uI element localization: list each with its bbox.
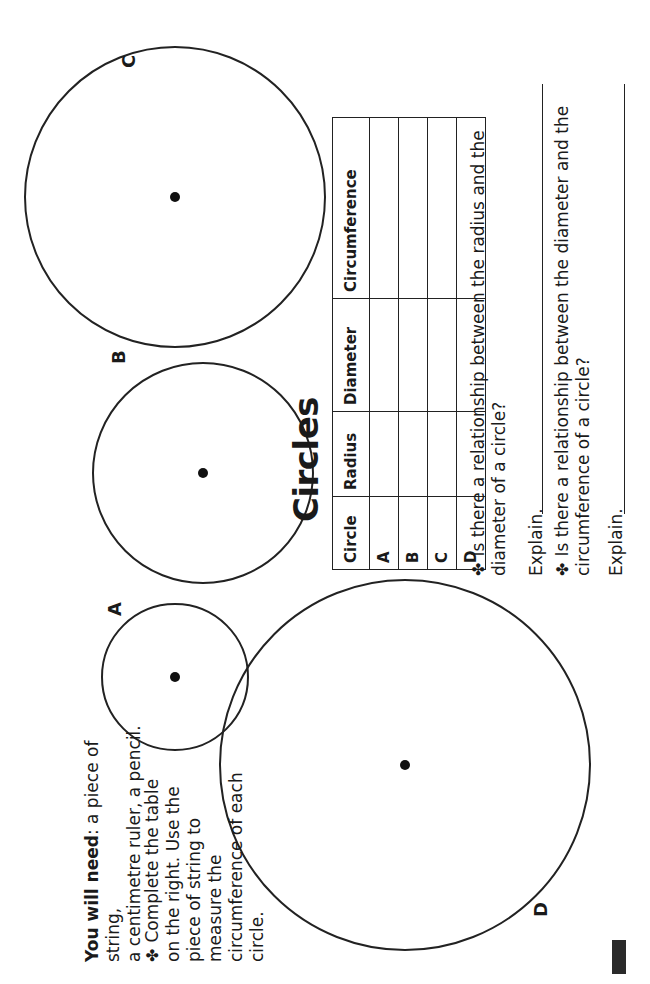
explain-label-1: Explain.	[526, 508, 547, 576]
center-dot-icon	[198, 468, 208, 478]
instruction-text: ✤Complete the table on the right. Use th…	[142, 722, 268, 962]
instruction-line: circumference of each circle.	[226, 722, 268, 962]
bullet-icon: ✤	[553, 563, 572, 576]
question-text: diameter of a circle?	[489, 76, 510, 576]
header-circle: Circle	[333, 497, 370, 570]
diameter-cell[interactable]	[370, 299, 399, 412]
question-2: ✤Is there a relationship between the dia…	[552, 56, 594, 576]
table-row: C	[428, 118, 457, 570]
circle-label-c: C	[118, 55, 139, 68]
circle-label-b: B	[108, 350, 129, 364]
question-1: ✤Is there a relationship between the rad…	[468, 76, 510, 576]
header-radius: Radius	[333, 412, 370, 497]
table-row: B	[399, 118, 428, 570]
center-dot-icon	[170, 672, 180, 682]
radius-cell[interactable]	[399, 412, 428, 497]
question-text: Is there a relationship between the radi…	[468, 130, 488, 556]
question-text: circumference of a circle?	[573, 56, 594, 576]
circle-label-a: A	[104, 602, 125, 616]
diameter-cell[interactable]	[428, 299, 457, 412]
header-circumference: Circumference	[333, 118, 370, 299]
publisher-logo-icon	[612, 940, 626, 974]
bullet-icon: ✤	[469, 563, 488, 576]
radius-cell[interactable]	[370, 412, 399, 497]
radius-cell[interactable]	[428, 412, 457, 497]
bullet-icon: ✤	[143, 949, 162, 962]
header-diameter: Diameter	[333, 299, 370, 412]
instruction-line: on the right. Use the	[163, 722, 184, 962]
materials-label: You will need	[82, 835, 102, 962]
circumference-cell[interactable]	[399, 118, 428, 299]
circle-d	[220, 580, 590, 950]
answer-line-1[interactable]	[542, 84, 543, 514]
worksheet-page: A B C D Circles You will need: a piece o…	[0, 0, 650, 984]
instruction-line: measure the	[205, 722, 226, 962]
circle-label-d: D	[530, 902, 551, 917]
diameter-cell[interactable]	[399, 299, 428, 412]
circle-c	[25, 47, 325, 347]
center-dot-icon	[170, 192, 180, 202]
explain-label-2: Explain.	[606, 508, 627, 576]
instruction-line: Complete the table	[142, 779, 162, 943]
question-text: Is there a relationship between the diam…	[552, 106, 572, 557]
row-label: B	[399, 497, 428, 570]
circle-b	[93, 363, 313, 583]
materials-text: You will need: a piece of string, a cent…	[82, 722, 145, 962]
circumference-cell[interactable]	[370, 118, 399, 299]
center-dot-icon	[400, 760, 410, 770]
table-row: A	[370, 118, 399, 570]
row-label: A	[370, 497, 399, 570]
page-title: Circles	[286, 397, 326, 522]
answer-line-2[interactable]	[624, 84, 625, 514]
instruction-line: piece of string to	[184, 722, 205, 962]
measurement-table: Circle Radius Diameter Circumference A B…	[332, 117, 486, 570]
row-label: C	[428, 497, 457, 570]
table-header-row: Circle Radius Diameter Circumference	[333, 118, 370, 570]
circumference-cell[interactable]	[428, 118, 457, 299]
